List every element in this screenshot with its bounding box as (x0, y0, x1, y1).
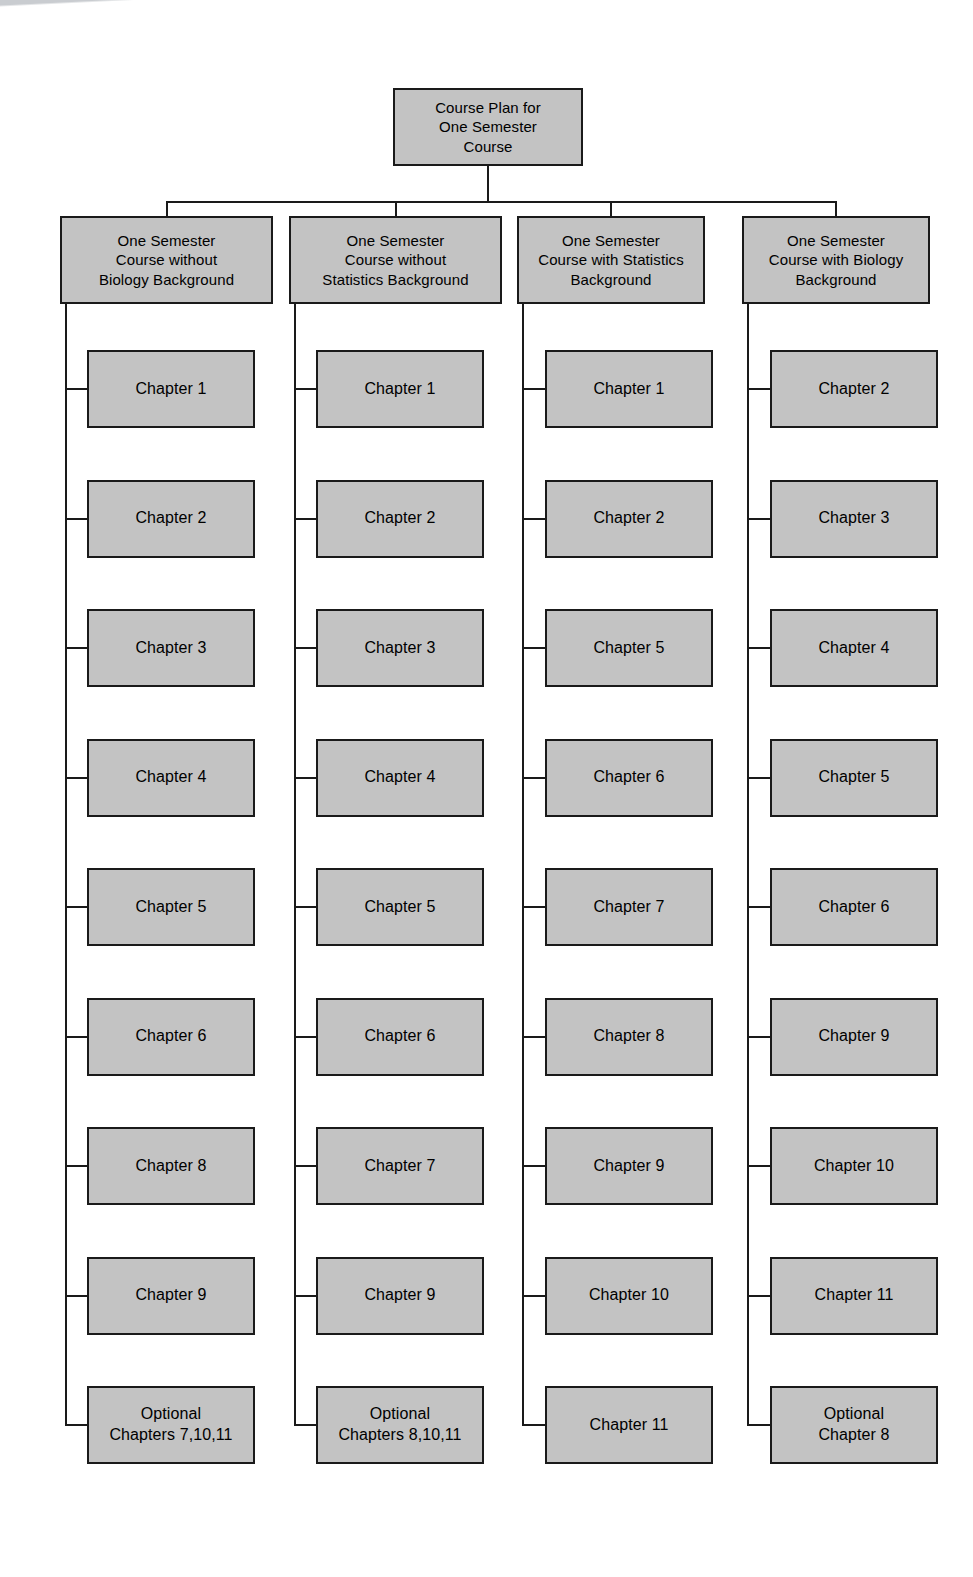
leaf-node: Chapter 6 (545, 739, 713, 817)
leaf-stub-connector (294, 906, 316, 908)
column-spine-connector (522, 304, 524, 1426)
leaf-node: Chapter 8 (545, 998, 713, 1076)
leaf-stub-connector (747, 777, 770, 779)
leaf-stub-connector (65, 388, 87, 390)
column-spine-connector (65, 304, 67, 1426)
leaf-stub-connector (65, 777, 87, 779)
leaf-stub-connector (522, 906, 545, 908)
leaf-node: Optional Chapter 8 (770, 1386, 938, 1464)
leaf-stub-connector (294, 647, 316, 649)
leaf-node: Optional Chapters 8,10,11 (316, 1386, 484, 1464)
leaf-node: Chapter 9 (545, 1127, 713, 1205)
course-plan-tree-diagram: Course Plan for One Semester CourseOne S… (0, 0, 973, 1577)
column-spine-connector (747, 304, 749, 1426)
column-header-node-4: One Semester Course with Biology Backgro… (742, 216, 930, 304)
root-node: Course Plan for One Semester Course (393, 88, 583, 166)
leaf-stub-connector (65, 647, 87, 649)
leaf-node: Chapter 6 (87, 998, 255, 1076)
leaf-node: Chapter 6 (316, 998, 484, 1076)
root-stem-connector (487, 166, 489, 201)
leaf-stub-connector (747, 518, 770, 520)
distribution-bus-connector (166, 201, 838, 203)
leaf-stub-connector (294, 518, 316, 520)
leaf-stub-connector (747, 1036, 770, 1038)
leaf-stub-connector (522, 647, 545, 649)
leaf-node: Chapter 9 (770, 998, 938, 1076)
leaf-node: Chapter 11 (770, 1257, 938, 1335)
column-drop-connector (166, 201, 168, 216)
leaf-node: Chapter 3 (316, 609, 484, 687)
leaf-node: Chapter 4 (316, 739, 484, 817)
leaf-stub-connector (747, 647, 770, 649)
column-drop-connector (395, 201, 397, 216)
leaf-node: Chapter 2 (545, 480, 713, 558)
leaf-node: Chapter 4 (770, 609, 938, 687)
leaf-node: Chapter 5 (545, 609, 713, 687)
column-spine-connector (294, 304, 296, 1426)
column-header-node-1: One Semester Course without Biology Back… (60, 216, 273, 304)
leaf-node: Chapter 1 (545, 350, 713, 428)
leaf-stub-connector (65, 1424, 87, 1426)
leaf-stub-connector (522, 518, 545, 520)
leaf-node: Chapter 9 (87, 1257, 255, 1335)
column-header-node-3: One Semester Course with Statistics Back… (517, 216, 705, 304)
leaf-stub-connector (294, 1424, 316, 1426)
leaf-node: Chapter 9 (316, 1257, 484, 1335)
leaf-stub-connector (522, 1295, 545, 1297)
leaf-node: Chapter 11 (545, 1386, 713, 1464)
leaf-stub-connector (65, 518, 87, 520)
column-header-node-2: One Semester Course without Statistics B… (289, 216, 502, 304)
leaf-stub-connector (65, 906, 87, 908)
leaf-stub-connector (522, 1424, 545, 1426)
leaf-stub-connector (294, 1036, 316, 1038)
column-drop-connector (835, 201, 837, 216)
leaf-node: Chapter 5 (316, 868, 484, 946)
leaf-stub-connector (747, 1165, 770, 1167)
leaf-node: Chapter 1 (316, 350, 484, 428)
leaf-node: Chapter 8 (87, 1127, 255, 1205)
leaf-stub-connector (747, 1424, 770, 1426)
leaf-stub-connector (294, 777, 316, 779)
leaf-stub-connector (747, 388, 770, 390)
leaf-node: Chapter 3 (770, 480, 938, 558)
leaf-stub-connector (522, 1165, 545, 1167)
leaf-stub-connector (522, 777, 545, 779)
leaf-node: Chapter 10 (770, 1127, 938, 1205)
leaf-node: Chapter 10 (545, 1257, 713, 1335)
leaf-stub-connector (65, 1165, 87, 1167)
leaf-node: Chapter 7 (545, 868, 713, 946)
leaf-stub-connector (294, 1165, 316, 1167)
leaf-stub-connector (522, 1036, 545, 1038)
leaf-node: Chapter 1 (87, 350, 255, 428)
leaf-stub-connector (522, 388, 545, 390)
leaf-stub-connector (65, 1295, 87, 1297)
leaf-node: Chapter 6 (770, 868, 938, 946)
leaf-node: Chapter 4 (87, 739, 255, 817)
leaf-node: Chapter 2 (770, 350, 938, 428)
column-drop-connector (610, 201, 612, 216)
leaf-node: Chapter 2 (87, 480, 255, 558)
leaf-node: Chapter 2 (316, 480, 484, 558)
leaf-stub-connector (747, 1295, 770, 1297)
leaf-node: Chapter 5 (770, 739, 938, 817)
leaf-node: Chapter 3 (87, 609, 255, 687)
leaf-stub-connector (294, 388, 316, 390)
leaf-node: Chapter 5 (87, 868, 255, 946)
leaf-node: Chapter 7 (316, 1127, 484, 1205)
leaf-stub-connector (65, 1036, 87, 1038)
leaf-stub-connector (747, 906, 770, 908)
leaf-stub-connector (294, 1295, 316, 1297)
leaf-node: Optional Chapters 7,10,11 (87, 1386, 255, 1464)
